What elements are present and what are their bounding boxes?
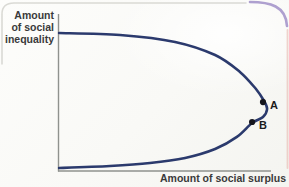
x-axis-label: Amount of social surplus (160, 172, 286, 184)
point-label-b: B (259, 119, 267, 131)
point-marker-b (249, 119, 255, 125)
inequality-curve (59, 33, 267, 168)
figure-card: A B Amount of social inequality Amount o… (0, 0, 289, 187)
page-corner-arc-purple-icon (250, 2, 287, 26)
point-marker-a (260, 99, 266, 105)
y-axis-label: Amount of social inequality (0, 9, 54, 45)
point-label-a: A (270, 99, 278, 111)
